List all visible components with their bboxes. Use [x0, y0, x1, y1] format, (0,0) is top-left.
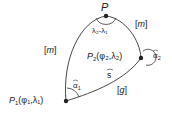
p1-point	[64, 99, 68, 103]
alpha1-label: α1	[73, 81, 81, 91]
alpha2-label: α2	[153, 51, 161, 61]
p2-label: P2(φ₂,λ₂)	[87, 51, 122, 62]
p2-point	[139, 56, 143, 60]
pole-angle-label: λ₂-λ₁	[92, 26, 108, 35]
spherical-triangle-diagram: P λ₂-λ₁ [m] [m] [g] P2(φ₂,λ₂) P1(φ₁,λ₁) …	[0, 0, 172, 114]
geodesic-label: [g]	[117, 85, 127, 95]
geodesic-curve	[66, 58, 141, 101]
pole-label: P	[101, 1, 109, 13]
pole-angle-arc	[96, 18, 116, 24]
pole-point	[104, 14, 108, 18]
meridian-right-label: [m]	[135, 19, 148, 29]
meridian-left-label: [m]	[44, 45, 57, 55]
arc-s-label: s	[107, 70, 111, 80]
p1-label: P1(φ₁,λ₁)	[9, 95, 43, 106]
